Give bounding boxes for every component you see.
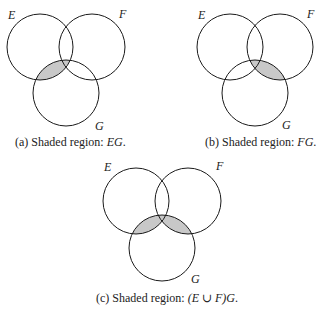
label-e: E <box>8 9 15 21</box>
shaded-region-e-union-f-g <box>103 168 221 234</box>
venn-diagram-c <box>103 168 221 281</box>
circle-f <box>247 14 313 80</box>
circle-g <box>222 60 288 126</box>
circle-f <box>59 14 125 80</box>
label-g: G <box>191 273 200 285</box>
label-f: F <box>119 8 126 20</box>
label-g: G <box>282 119 291 131</box>
circle-e <box>103 168 169 234</box>
venn-diagram-b <box>197 14 313 126</box>
circle-g <box>129 215 195 281</box>
label-g: G <box>95 120 104 132</box>
caption-a: (a) Shaded region: EG. <box>15 136 126 149</box>
circle-e <box>197 14 263 80</box>
label-f: F <box>307 8 314 20</box>
circle-f <box>155 168 221 234</box>
venn-diagram-a <box>7 14 125 126</box>
circle-e <box>7 14 73 80</box>
venn-diagrams-canvas <box>0 0 323 320</box>
label-f: F <box>216 160 223 172</box>
circle-g <box>33 60 99 126</box>
caption-b: (b) Shaded region: FG. <box>205 136 316 149</box>
caption-c: (c) Shaded region: (E ∪ F)G. <box>96 292 238 305</box>
label-e: E <box>104 161 111 173</box>
label-e: E <box>198 9 205 21</box>
